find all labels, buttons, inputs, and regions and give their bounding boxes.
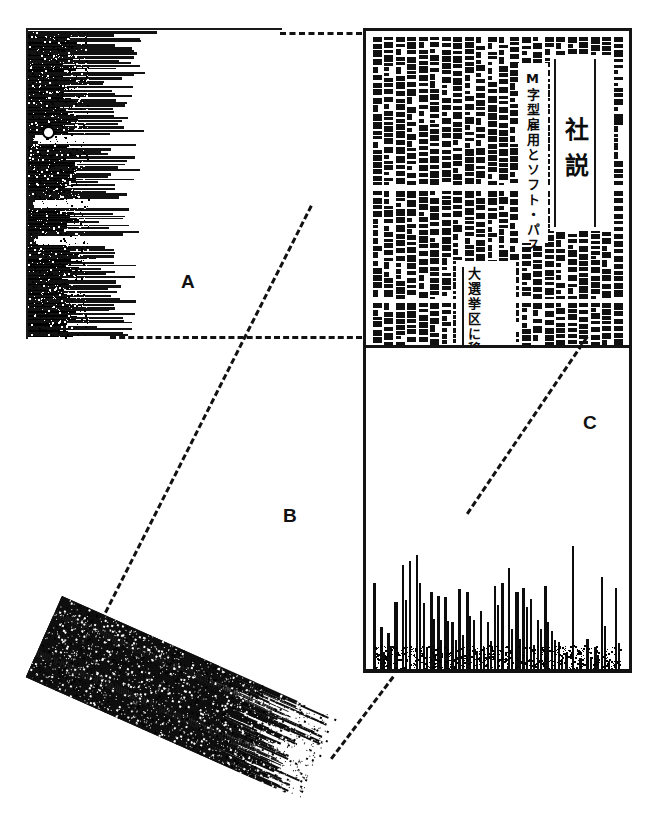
news-glyph: [465, 164, 474, 170]
scan-speckle: [413, 651, 414, 652]
scan-speckle: [35, 77, 36, 78]
scan-speckle: [383, 665, 384, 666]
scan-speckle: [68, 169, 69, 170]
scan-speckle: [76, 195, 77, 196]
region-label-c: C: [583, 413, 597, 432]
news-glyph: [476, 107, 485, 110]
scan-speckle: [86, 291, 87, 292]
news-glyph: [407, 141, 412, 147]
scan-speckle: [57, 182, 58, 183]
scan-speckle: [72, 75, 73, 76]
news-glyph: [384, 78, 393, 82]
scan-speckle: [46, 184, 47, 185]
scan-speckle: [55, 143, 56, 144]
scan-speckle: [590, 659, 591, 660]
scan-speckle: [536, 658, 537, 659]
scan-speckle: [42, 159, 44, 161]
scan-speckle: [42, 294, 43, 295]
scan-speckle: [68, 113, 70, 115]
scan-speckle: [50, 117, 51, 118]
scan-speckle: [58, 257, 59, 258]
news-glyph: [602, 269, 611, 274]
scan-speckle: [70, 270, 72, 272]
scan-speckle: [30, 175, 31, 176]
scan-speckle: [32, 274, 33, 275]
scan-speckle: [487, 649, 489, 651]
scan-speckle: [488, 653, 490, 655]
scan-speckle: [506, 661, 507, 662]
scan-speckle: [86, 46, 87, 47]
scan-speckle: [45, 112, 46, 113]
news-glyph: [384, 165, 393, 171]
scan-speckle: [69, 183, 71, 185]
scan-speckle: [492, 649, 493, 650]
scan-speckle: [78, 36, 79, 37]
scan-speckle: [411, 649, 412, 650]
scan-speckle: [40, 251, 41, 252]
news-glyph: [407, 97, 412, 104]
news-glyph: [396, 269, 401, 274]
news-glyph: [545, 303, 554, 308]
news-glyph: [373, 337, 382, 343]
scan-speckle: [43, 169, 44, 170]
scan-speckle: [489, 656, 490, 657]
scan-speckle: [47, 150, 49, 152]
scan-speckle: [431, 649, 432, 650]
scan-speckle: [51, 265, 53, 267]
news-text-column: [429, 303, 440, 345]
scan-speckle: [459, 660, 460, 661]
scan-speckle: [71, 216, 72, 217]
news-glyph: [453, 106, 462, 111]
news-glyph: [499, 50, 504, 55]
news-glyph: [384, 83, 393, 87]
news-glyph: [568, 288, 573, 294]
news-glyph: [396, 171, 405, 176]
news-glyph: [419, 146, 428, 150]
scan-speckle: [57, 285, 58, 286]
scan-speckle: [436, 663, 437, 664]
scan-speckle: [71, 193, 72, 194]
scan-speckle: [42, 107, 43, 108]
scan-speckle: [39, 333, 40, 334]
scan-speckle: [59, 312, 61, 314]
scan-speckle: [620, 661, 621, 662]
scan-speckle: [565, 650, 566, 651]
scan-speckle: [65, 184, 67, 186]
scan-speckle: [52, 154, 54, 156]
news-glyph: [591, 251, 600, 255]
scan-speckle: [29, 184, 30, 185]
scan-speckle: [76, 76, 77, 77]
scan-speckle: [75, 57, 76, 58]
scan-speckle: [87, 45, 88, 46]
news-glyph: [579, 310, 588, 315]
news-glyph: [465, 217, 474, 220]
news-glyph: [442, 127, 451, 132]
news-glyph: [476, 65, 485, 71]
news-glyph: [396, 67, 401, 74]
connector-a-bottom-to-frame: [110, 336, 362, 339]
scan-speckle: [48, 208, 50, 210]
news-glyph: [384, 327, 393, 331]
scan-speckle: [38, 79, 39, 80]
news-glyph: [579, 254, 588, 260]
news-glyph: [453, 174, 462, 180]
scan-speckle: [67, 228, 68, 229]
news-glyph: [419, 132, 428, 137]
scan-speckle: [33, 124, 34, 125]
scan-speckle: [45, 77, 46, 78]
news-glyph: [373, 59, 382, 66]
scan-speckle: [71, 304, 72, 305]
scan-speckle: [64, 274, 66, 276]
news-text-column: [395, 191, 406, 299]
scan-speckle: [65, 88, 66, 89]
news-glyph: [430, 179, 439, 185]
scan-speckle: [81, 119, 82, 120]
scan-speckle: [66, 201, 67, 202]
news-glyph: [373, 75, 382, 81]
scan-speckle: [447, 662, 449, 664]
scan-speckle: [397, 654, 398, 655]
scan-speckle: [554, 665, 555, 666]
news-glyph: [430, 149, 439, 154]
news-glyph: [396, 198, 405, 201]
scan-speckle: [44, 58, 46, 60]
